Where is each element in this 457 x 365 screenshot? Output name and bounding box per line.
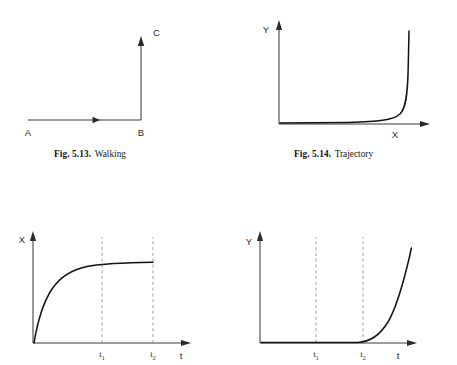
x-axis-label: t bbox=[180, 350, 183, 361]
tick-label-t2: t2 bbox=[150, 349, 156, 361]
tick-label-t1-sub: 1 bbox=[102, 355, 105, 361]
tick-label-t2-sub: 2 bbox=[153, 355, 156, 361]
x-axis-arrowhead-icon bbox=[420, 121, 430, 127]
arrowhead-up-icon bbox=[138, 36, 144, 46]
saturation-curve bbox=[34, 262, 153, 343]
node-label-b: B bbox=[138, 127, 144, 138]
node-label-a: A bbox=[25, 127, 32, 138]
y-axis-arrowhead-icon bbox=[30, 231, 36, 241]
tick-label-t1-sub: 1 bbox=[316, 355, 319, 361]
caption-fig-5-14: Fig. 5.14.Trajectory bbox=[294, 150, 373, 159]
y-axis-label: X bbox=[19, 234, 26, 245]
tick-label-t1: t1 bbox=[99, 349, 105, 361]
trajectory-curve bbox=[280, 31, 409, 123]
walking-diagram: A B C bbox=[0, 0, 228, 140]
x-axis-arrowhead-icon bbox=[407, 340, 417, 346]
arrowhead-right-icon bbox=[93, 117, 101, 123]
figure-panel-bottom-right: Y t t1 t2 bbox=[228, 215, 457, 365]
caption-title: Walking bbox=[95, 149, 126, 159]
tick-label-t1: t1 bbox=[313, 349, 319, 361]
exponential-curve bbox=[261, 248, 411, 342]
figure-panel-5-13: A B C Fig. 5.13.Walking bbox=[0, 0, 228, 140]
caption-title: Trajectory bbox=[335, 149, 373, 159]
x-axis-arrowhead-icon bbox=[181, 340, 191, 346]
caption-fig-5-13: Fig. 5.13.Walking bbox=[54, 150, 126, 159]
node-label-c: C bbox=[153, 27, 160, 38]
saturation-chart: X t t1 t2 bbox=[0, 215, 228, 365]
caption-number: Fig. 5.13. bbox=[54, 149, 91, 159]
exponential-chart: Y t t1 t2 bbox=[228, 215, 457, 365]
trajectory-chart: Y X bbox=[228, 0, 457, 140]
figure-panel-bottom-left: X t t1 t2 bbox=[0, 215, 228, 365]
y-axis-label: Y bbox=[263, 24, 270, 35]
figure-panel-5-14: Y X Fig. 5.14.Trajectory bbox=[228, 0, 457, 140]
x-axis-label: X bbox=[392, 129, 399, 140]
x-axis-label: t bbox=[397, 350, 400, 361]
y-axis-label: Y bbox=[246, 236, 253, 247]
tick-label-t2: t2 bbox=[360, 349, 366, 361]
caption-number: Fig. 5.14. bbox=[294, 149, 331, 159]
figure-grid: A B C Fig. 5.13.Walking Y X Fig. 5.14.Tr… bbox=[0, 0, 457, 365]
y-axis-arrowhead-icon bbox=[257, 231, 263, 241]
tick-label-t2-sub: 2 bbox=[363, 355, 366, 361]
y-axis-arrowhead-icon bbox=[276, 20, 282, 30]
